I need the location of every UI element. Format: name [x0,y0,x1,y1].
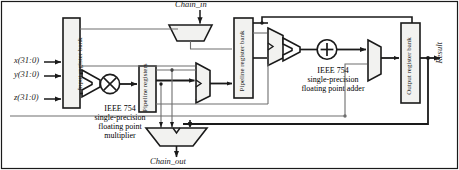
adder-operator-symbol [317,40,337,60]
bus-junction-dot-low [343,114,346,117]
multiplier-caption-line2: single-precision [77,113,163,122]
adder-merge-funnel [283,38,300,61]
pipeline-register-bank-label: Pipeline register bank [239,23,247,99]
adder-input-mux-shape [268,28,283,66]
multiplier-caption: IEEE 754 single-precision floating point… [77,104,163,140]
feedback-junction-dot [188,122,192,126]
chain-in-label: Chain_in [175,0,207,10]
output-register-bank-label: Output register bank [406,28,414,104]
adder-caption-line1: IEEE 754 [274,66,392,75]
z-input-label: z(31:0) [14,93,39,103]
multiplier-operator-symbol [100,74,119,93]
multiplier-caption-line1: IEEE 754 [77,104,163,113]
chain-in-mux-shape [169,25,212,41]
figure-canvas: x(31:0) y(31:0) z(31:0) Chain_in Chain_o… [0,0,459,170]
result-label: Result [435,42,445,63]
adder-caption: IEEE 754 single-precision floating point… [274,66,392,93]
operand-select-mux-shape [196,63,210,103]
chainmux-output-wire [191,41,233,49]
multiplier-caption-line4: multiplier [77,131,163,140]
chain-out-label: Chain_out [150,157,186,167]
adder-caption-line3: floating point adder [274,84,392,93]
bus-junction-dot-top [260,21,263,24]
adder-caption-line2: single-precision [274,75,392,84]
multiplier-caption-line3: floating point [77,122,163,131]
y-input-label: y(31:0) [14,70,39,80]
input-register-bank-label: Input register bank [77,22,85,106]
x-input-label: x(31:0) [14,56,39,66]
tap-dot-a [159,82,162,85]
